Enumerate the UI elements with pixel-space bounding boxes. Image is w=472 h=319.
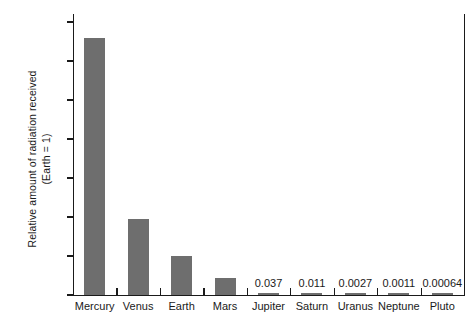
bar: [215, 278, 236, 295]
bar: [432, 293, 453, 295]
bar: [345, 293, 366, 295]
bars-layer: [0, 0, 472, 295]
bar-chart: Relative amount of radiation received (E…: [0, 0, 472, 319]
bar: [171, 256, 192, 295]
x-axis-category-label: Pluto: [407, 300, 472, 313]
x-axis-line: [73, 295, 465, 296]
bar: [128, 219, 149, 295]
bar: [258, 293, 279, 295]
bar-value-label: 0.00064: [412, 278, 472, 289]
bar: [301, 293, 322, 295]
bar: [84, 38, 105, 295]
bar: [388, 293, 409, 295]
